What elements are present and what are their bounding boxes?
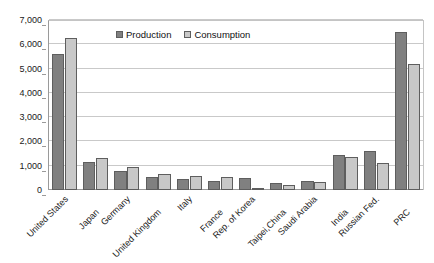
bar-group	[236, 20, 267, 190]
bar-group	[174, 20, 205, 190]
consumption-swatch-icon	[184, 31, 191, 38]
legend-entry-consumption: Consumption	[184, 30, 250, 40]
y-tick-mark	[42, 49, 46, 50]
y-tick-label: 6,000	[0, 40, 42, 49]
bar-consumption	[127, 167, 139, 190]
x-axis-label: Italy	[176, 194, 195, 213]
bar-group	[330, 20, 361, 190]
x-axis-label: Germany	[99, 194, 132, 227]
bar-group	[111, 20, 142, 190]
bar-production	[333, 155, 345, 190]
x-axis-labels: United StatesJapanGermanyUnited KingdomI…	[0, 190, 434, 263]
bar-production	[301, 181, 313, 190]
bar-consumption	[158, 174, 170, 191]
y-tick-mark	[42, 146, 46, 147]
y-tick-mark	[42, 98, 46, 99]
y-tick-label: 3,000	[0, 113, 42, 122]
production-swatch-icon	[116, 31, 123, 38]
chart-legend: ProductionConsumption	[113, 29, 253, 41]
bar-production	[146, 177, 158, 190]
y-tick-label: 2,000	[0, 137, 42, 146]
bar-production	[395, 32, 407, 190]
bar-group	[392, 20, 423, 190]
bar-consumption	[377, 163, 389, 190]
bar-consumption	[190, 176, 202, 190]
bar-group	[143, 20, 174, 190]
bar-group	[80, 20, 111, 190]
x-axis-label: PRC	[392, 207, 413, 228]
bar-consumption	[221, 177, 233, 190]
bar-consumption	[345, 157, 357, 190]
x-axis-label: United Kingdom	[111, 207, 163, 259]
y-tick-mark	[42, 171, 46, 172]
y-tick-mark	[42, 122, 46, 123]
y-tick-mark	[42, 74, 46, 75]
x-axis-label: United States	[24, 194, 69, 239]
legend-label: Production	[126, 30, 171, 40]
bar-production	[52, 54, 64, 190]
bar-consumption	[314, 182, 326, 190]
legend-label: Consumption	[194, 30, 250, 40]
y-tick-mark	[42, 25, 46, 26]
y-tick-label: 1,000	[0, 162, 42, 171]
bar-group	[298, 20, 329, 190]
y-tick-label: 4,000	[0, 89, 42, 98]
bar-production	[239, 178, 251, 190]
bar-chart: 01,0002,0003,0004,0005,0006,0007,000 Pro…	[0, 0, 434, 263]
y-tick-label: 5,000	[0, 65, 42, 74]
bar-consumption	[96, 158, 108, 190]
bar-group	[267, 20, 298, 190]
bar-production	[208, 181, 220, 190]
bar-consumption	[408, 64, 420, 190]
bar-group	[361, 20, 392, 190]
bar-group	[49, 20, 80, 190]
bar-production	[364, 151, 376, 190]
bar-production	[177, 179, 189, 190]
bar-consumption	[65, 38, 77, 190]
x-axis-label: Japan	[76, 207, 100, 231]
bars-layer	[49, 20, 423, 190]
bar-group	[205, 20, 236, 190]
bar-production	[114, 171, 126, 190]
legend-entry-production: Production	[116, 30, 171, 40]
y-tick-label: 7,000	[0, 16, 42, 25]
bar-production	[83, 162, 95, 190]
